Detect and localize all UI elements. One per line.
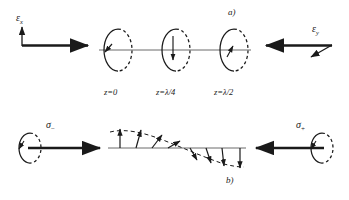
epsilon-y-label: εy xyxy=(312,24,319,37)
polarization-figure xyxy=(0,0,349,200)
field-vector xyxy=(190,148,197,160)
sigma-plus-label: σ+ xyxy=(296,120,305,133)
field-vector xyxy=(222,148,224,166)
panel-label-a: a) xyxy=(228,8,236,17)
field-vector xyxy=(168,141,180,148)
z-label-0: z=0 xyxy=(104,88,117,97)
z-label-lambda4: z=λ/4 xyxy=(156,88,175,97)
field-vector xyxy=(206,148,211,163)
panel-label-b: b) xyxy=(226,176,234,185)
z-label-lambda2: z=λ/2 xyxy=(214,88,233,97)
epsilon-x-label: εx xyxy=(16,13,23,26)
sigma-minus-label: σ− xyxy=(46,120,55,133)
epsilon-y-axis-arrow xyxy=(311,45,332,57)
